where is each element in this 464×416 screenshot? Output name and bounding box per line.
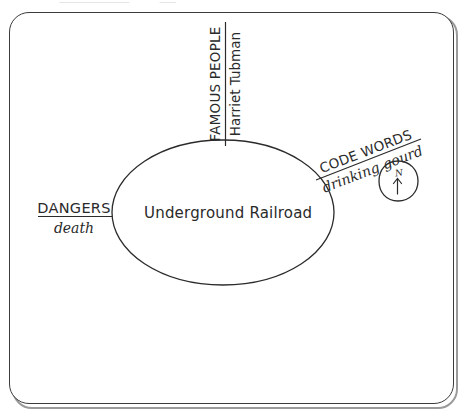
- worksheet-page: Name ______________ Date ____ Undergroun…: [0, 0, 464, 416]
- branch-dangers-category: DANGERS: [36, 200, 112, 216]
- branch-famous-people-category: FAMOUS PEOPLE: [207, 21, 223, 147]
- branch-dangers-example: death: [36, 220, 112, 236]
- compass-north-label: N: [394, 168, 403, 179]
- clipped-header-text: Name ______________ Date ____: [26, 0, 176, 3]
- branch-dangers: DANGERS death: [36, 200, 112, 236]
- center-topic-label: Underground Railroad: [144, 204, 312, 222]
- branch-famous-people: FAMOUS PEOPLE Harriet Tubman: [207, 21, 243, 147]
- branch-famous-people-example: Harriet Tubman: [227, 21, 243, 147]
